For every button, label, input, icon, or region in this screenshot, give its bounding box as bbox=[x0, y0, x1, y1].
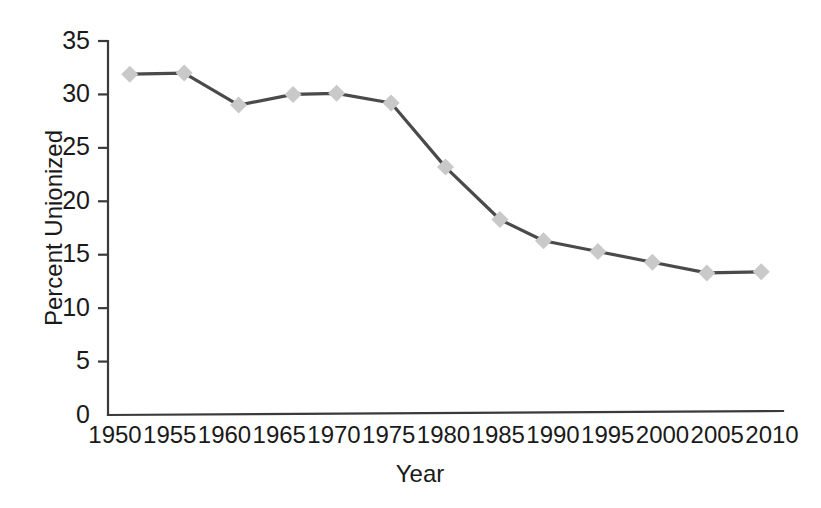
data-markers-group bbox=[121, 65, 769, 282]
y-axis-ticks bbox=[98, 41, 108, 362]
data-point-marker bbox=[589, 243, 606, 260]
x-axis-title: Year bbox=[396, 460, 445, 487]
x-tick-label: 1995 bbox=[581, 421, 634, 448]
x-tick-label: 1990 bbox=[526, 421, 579, 448]
x-tick-label: 1960 bbox=[198, 421, 251, 448]
x-tick-label: 1965 bbox=[253, 421, 306, 448]
data-point-marker bbox=[176, 65, 193, 82]
axes-group bbox=[108, 41, 783, 415]
y-tick-label: 35 bbox=[62, 26, 90, 54]
line-chart-svg: 05101520253035 1950195519601965197019751… bbox=[0, 0, 821, 508]
x-tick-label: 2010 bbox=[745, 421, 798, 448]
x-tick-label: 2005 bbox=[691, 421, 744, 448]
data-point-marker bbox=[328, 85, 345, 102]
x-tick-label: 1975 bbox=[362, 421, 415, 448]
x-axis-line bbox=[108, 411, 783, 415]
data-point-marker bbox=[644, 254, 661, 271]
y-tick-label: 30 bbox=[62, 79, 90, 107]
x-tick-label: 1970 bbox=[307, 421, 360, 448]
data-point-marker bbox=[698, 264, 715, 281]
data-point-marker bbox=[285, 86, 302, 103]
data-point-marker bbox=[753, 263, 770, 280]
data-point-marker bbox=[230, 97, 247, 114]
x-tick-label: 1985 bbox=[472, 421, 525, 448]
x-tick-label: 2000 bbox=[636, 421, 689, 448]
chart-figure: 05101520253035 1950195519601965197019751… bbox=[0, 0, 821, 508]
y-tick-label: 5 bbox=[76, 346, 90, 374]
x-tick-label: 1950 bbox=[88, 421, 141, 448]
y-axis-title: Percent Unionized bbox=[40, 130, 67, 326]
data-point-marker bbox=[535, 232, 552, 249]
x-tick-label: 1955 bbox=[143, 421, 196, 448]
x-axis-tick-labels: 1950195519601965197019751980198519901995… bbox=[88, 421, 798, 448]
x-tick-label: 1980 bbox=[417, 421, 470, 448]
data-point-marker bbox=[121, 66, 138, 83]
